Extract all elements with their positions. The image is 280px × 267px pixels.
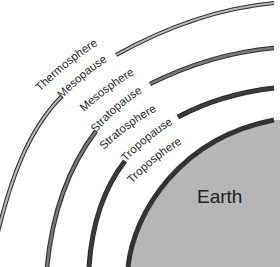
- atmosphere-layers-diagram: Thermosphere Mesopause Mesosphere Strato…: [0, 0, 280, 267]
- label-earth: Earth: [197, 186, 242, 207]
